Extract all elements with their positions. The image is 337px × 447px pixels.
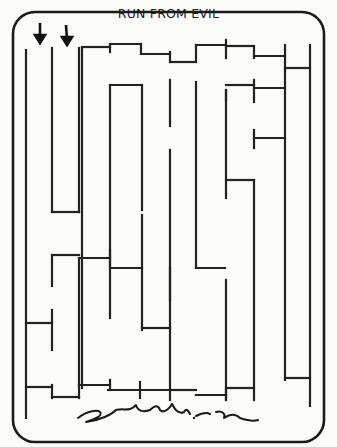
- down-arrow-icon: [62, 25, 72, 45]
- entrance-arrows: [35, 23, 72, 45]
- maze-board[interactable]: [0, 0, 337, 447]
- down-arrow-icon: [35, 23, 45, 43]
- flames-icon: [78, 404, 258, 422]
- maze-walls: [26, 40, 310, 418]
- maze-frame: [13, 12, 324, 442]
